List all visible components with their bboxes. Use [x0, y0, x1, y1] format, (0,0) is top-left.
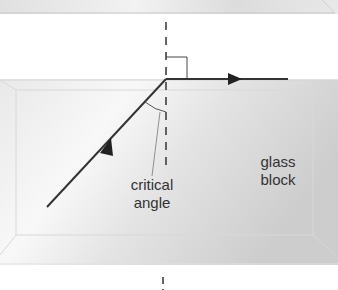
- diagram-canvas: [0, 0, 338, 290]
- glass-block-label: glass block: [252, 153, 304, 189]
- upper-glass-block: [0, 0, 338, 14]
- critical-angle-label: critical angle: [118, 176, 186, 212]
- right-angle-marker: [166, 57, 187, 79]
